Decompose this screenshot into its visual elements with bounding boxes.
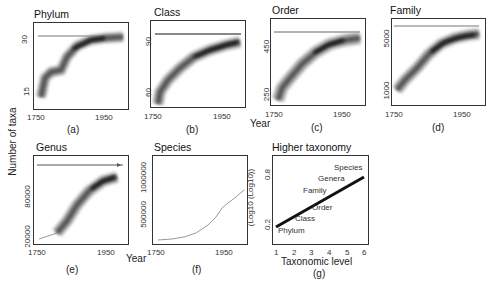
x-tick: 1 <box>274 248 278 257</box>
plot-area <box>270 18 366 106</box>
y-tick: 0.8 <box>263 169 272 180</box>
point-label-order: Order <box>312 203 332 212</box>
y-tick: 90 <box>144 37 153 46</box>
y-axis-label: (Log10 (Log10)) <box>246 169 255 226</box>
x-tick: 1950 <box>97 248 115 257</box>
x-tick: 1950 <box>453 110 471 119</box>
x-tick: 1750 <box>147 248 165 257</box>
panel-label: (d) <box>432 122 444 133</box>
point-label-class: Class <box>295 214 315 223</box>
plot-area <box>33 155 129 245</box>
x-axis-label-year-bottom: Year <box>126 253 146 264</box>
x-tick: 1750 <box>265 110 283 119</box>
panel-label: (f) <box>192 264 201 275</box>
x-tick: 1750 <box>144 112 162 121</box>
y-tick: 500000 <box>139 201 148 228</box>
y-tick: 450 <box>262 40 271 53</box>
point-label-family: Family <box>303 186 327 195</box>
plot-area <box>152 155 248 245</box>
y-tick: 80000 <box>23 185 32 207</box>
panel-title: Class <box>154 6 180 18</box>
panel-label: (g) <box>313 268 325 279</box>
plot-area <box>33 22 129 110</box>
x-tick: 1750 <box>27 113 45 122</box>
x-tick: 1950 <box>333 110 351 119</box>
panel-title: Genus <box>36 141 67 153</box>
x-tick: 1750 <box>28 248 46 257</box>
plot-area <box>391 18 486 106</box>
panel-label: (a) <box>67 124 79 135</box>
y-tick: 0.2 <box>263 219 272 230</box>
panel-title: Family <box>390 4 421 16</box>
panel-title: Phylum <box>34 8 69 20</box>
y-tick: 60 <box>144 88 153 97</box>
y-tick: 1000000 <box>139 162 148 193</box>
x-axis-label-year-top: Year <box>250 118 270 129</box>
panel-label: (b) <box>186 124 198 135</box>
y-axis-label: Number of taxa <box>7 102 18 182</box>
y-tick: 5000 <box>382 30 391 48</box>
x-tick: 6 <box>362 248 366 257</box>
x-axis-label: Taxonomic level <box>281 256 352 267</box>
y-tick: 30 <box>20 35 29 44</box>
y-tick: 1000 <box>382 82 391 100</box>
x-tick: 1750 <box>385 110 403 119</box>
x-tick: 1950 <box>215 248 233 257</box>
y-tick: 250 <box>262 88 271 101</box>
plot-area <box>150 20 246 108</box>
panel-label: (e) <box>66 264 78 275</box>
panel-title: Higher taxonomy <box>272 141 351 153</box>
point-label-phylum: Phylum <box>278 226 305 235</box>
y-tick: 20000 <box>23 225 32 247</box>
x-tick: 1950 <box>95 113 113 122</box>
panel-label: (c) <box>311 122 323 133</box>
panel-title: Species <box>154 141 191 153</box>
y-tick: 15 <box>22 87 31 96</box>
point-label-genera: Genera <box>318 174 345 183</box>
x-tick: 1950 <box>213 112 231 121</box>
panel-title: Order <box>272 4 299 16</box>
point-label-species: Species <box>334 163 362 172</box>
